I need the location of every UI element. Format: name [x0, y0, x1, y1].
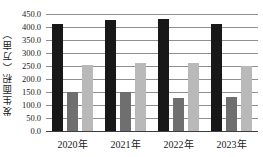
bar-2020年-series-1 — [52, 24, 63, 131]
bar-2020年-series-3 — [82, 65, 93, 131]
gridline — [46, 53, 258, 54]
y-tick-label: 400.0 — [0, 22, 41, 32]
y-tick-label: 100.0 — [0, 100, 41, 110]
y-axis-ticks: 450.0400.0350.0300.0250.0200.0150.0100.0… — [0, 14, 43, 131]
y-tick-label: 200.0 — [0, 74, 41, 84]
gridline — [46, 66, 258, 67]
bar-2020年-series-2 — [67, 92, 78, 131]
bar-2021年-series-1 — [105, 20, 116, 131]
y-tick-label: 50.0 — [0, 113, 41, 123]
gridline — [46, 40, 258, 41]
bar-2022年-series-3 — [188, 63, 199, 131]
bar-chart: 发生面积（万亩） 450.0400.0350.0300.0250.0200.01… — [0, 0, 263, 157]
y-tick-label: 300.0 — [0, 48, 41, 58]
bar-2021年-series-2 — [120, 92, 131, 131]
x-axis-label: 2023年 — [205, 136, 258, 150]
bar-2023年-series-1 — [211, 24, 222, 131]
y-tick-label: 150.0 — [0, 87, 41, 97]
bar-2023年-series-3 — [241, 66, 252, 131]
gridline — [46, 27, 258, 28]
x-axis-label: 2020年 — [46, 136, 99, 150]
x-axis-label: 2022年 — [152, 136, 205, 150]
x-axis-labels: 2020年2021年2022年2023年 — [46, 136, 258, 150]
bar-2022年-series-2 — [173, 98, 184, 131]
y-tick-label: 450.0 — [0, 9, 41, 19]
x-axis-label: 2021年 — [99, 136, 152, 150]
bar-2023年-series-2 — [226, 97, 237, 131]
y-tick-label: 0.0 — [0, 126, 41, 136]
gridline — [46, 79, 258, 80]
gridline — [46, 14, 258, 15]
bar-2022年-series-1 — [158, 19, 169, 131]
y-tick-label: 350.0 — [0, 35, 41, 45]
y-tick-label: 250.0 — [0, 61, 41, 71]
bar-2021年-series-3 — [135, 63, 146, 131]
plot-area — [46, 14, 258, 132]
